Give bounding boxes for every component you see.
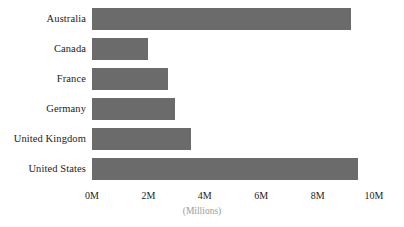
bar-row: Germany [0,98,404,120]
plot-area: Australia Canada France Germany United K… [0,0,404,188]
x-tick-label: 8M [298,190,338,201]
category-label-united-states: United States [0,158,86,180]
x-tick-label: 2M [128,190,168,201]
x-axis: 0M 2M 4M 6M 8M 10M (Millions) [0,188,404,227]
bar-row: France [0,68,404,90]
x-tick-label: 4M [185,190,225,201]
bar-france [92,68,168,90]
x-tick-label: 6M [241,190,281,201]
bar-row: United States [0,158,404,180]
category-label-australia: Australia [0,8,86,30]
category-label-france: France [0,68,86,90]
bar-australia [92,8,351,30]
bar-united-states [92,158,358,180]
bar-row: Australia [0,8,404,30]
bar-united-kingdom [92,128,191,150]
category-label-canada: Canada [0,38,86,60]
category-label-germany: Germany [0,98,86,120]
bar-germany [92,98,175,120]
x-tick-label: 10M [354,190,394,201]
bar-row: Canada [0,38,404,60]
x-axis-title: (Millions) [0,206,404,216]
x-tick-label: 0M [72,190,112,201]
bar-row: United Kingdom [0,128,404,150]
horizontal-bar-chart: Australia Canada France Germany United K… [0,0,404,227]
category-label-united-kingdom: United Kingdom [0,128,86,150]
bar-canada [92,38,148,60]
